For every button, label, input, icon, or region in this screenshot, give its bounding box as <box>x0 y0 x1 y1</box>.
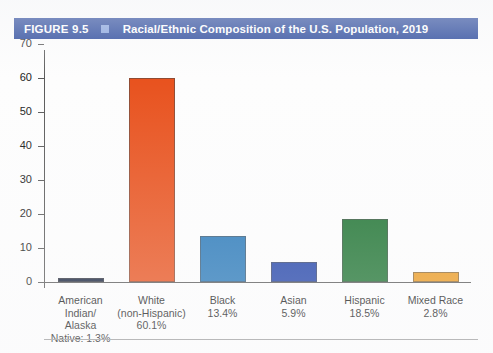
y-axis-tick-label: 30 <box>0 173 32 185</box>
y-axis-tick-label: 10 <box>0 241 32 253</box>
y-axis-tick-label: 60 <box>0 71 32 83</box>
y-axis-tick-label: 70 <box>0 37 32 49</box>
figure-title: Racial/Ethnic Composition of the U.S. Po… <box>123 23 429 35</box>
y-axis-tick-label: 50 <box>0 105 32 117</box>
bar-hispanic <box>342 219 388 282</box>
y-axis-tick-label: 20 <box>0 207 32 219</box>
x-axis-label-line: 60.1% <box>109 319 194 332</box>
x-axis-label-mixed-race: Mixed Race2.8% <box>393 294 478 319</box>
x-axis-label-line: Mixed Race <box>393 294 478 307</box>
square-marker-icon <box>101 25 109 33</box>
figure-header-bar: FIGURE 9.5 Racial/Ethnic Composition of … <box>14 18 478 39</box>
y-axis-tick <box>38 112 44 113</box>
figure-container: FIGURE 9.5 Racial/Ethnic Composition of … <box>0 0 493 353</box>
x-axis-label-line: Native: 1.3% <box>38 332 123 345</box>
figure-number: FIGURE 9.5 <box>24 23 89 35</box>
bar-american-indian-alaska-native <box>58 278 104 282</box>
y-axis-tick <box>38 78 44 79</box>
plot-area: 010203040506070 <box>0 44 493 294</box>
x-axis-label-line: 2.8% <box>393 307 478 320</box>
y-axis-tick <box>38 248 44 249</box>
bar-black <box>200 236 246 282</box>
y-axis-tick <box>38 282 44 283</box>
bottom-divider <box>44 339 478 340</box>
y-axis-tick <box>38 146 44 147</box>
bar-white-non-hispanic <box>129 78 175 282</box>
y-axis-tick <box>38 214 44 215</box>
bar-asian <box>271 262 317 282</box>
x-axis-labels: AmericanIndian/AlaskaNative: 1.3%White(n… <box>45 294 471 353</box>
bar-mixed-race <box>413 272 459 282</box>
y-axis-tick-label: 0 <box>0 275 32 287</box>
y-axis-tick-label: 40 <box>0 139 32 151</box>
y-axis-tick <box>38 44 44 45</box>
y-axis-tick <box>38 180 44 181</box>
bars-layer <box>45 44 471 283</box>
